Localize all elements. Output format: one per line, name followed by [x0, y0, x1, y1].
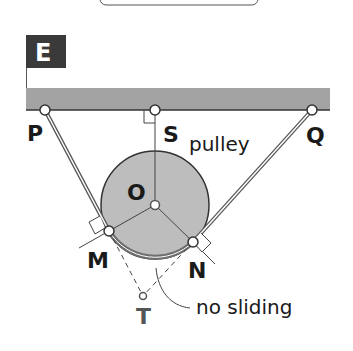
label-N: N: [188, 258, 206, 283]
point-P: [40, 105, 50, 115]
label-S: S: [163, 122, 179, 147]
point-M: [104, 226, 114, 236]
pulley-diagram: E P S Q O M N T pulley no sliding: [0, 0, 353, 351]
rope-PM-inner: [45, 110, 109, 231]
frame-label: E: [35, 39, 51, 67]
label-no-sliding: no sliding: [196, 295, 292, 319]
label-Q: Q: [306, 123, 325, 148]
point-N: [188, 237, 198, 247]
point-Q: [307, 105, 317, 115]
caption-box: [100, 0, 258, 5]
rope-QN-inner: [193, 110, 312, 242]
label-P: P: [27, 121, 43, 146]
label-pulley: pulley: [189, 132, 250, 156]
label-M: M: [87, 248, 109, 273]
label-T: T: [136, 304, 151, 329]
point-O: [151, 201, 160, 210]
point-S: [150, 105, 160, 115]
point-T: [140, 293, 147, 300]
label-O: O: [127, 180, 146, 205]
beam: [26, 88, 330, 110]
no-sliding-leader: [156, 268, 190, 308]
